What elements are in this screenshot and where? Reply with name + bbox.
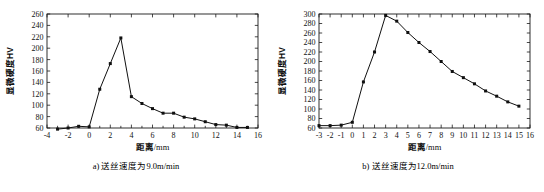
x-tick-label: 12 (212, 131, 220, 140)
y-tick-label: 240 (304, 38, 316, 47)
data-point-marker (362, 80, 365, 83)
data-point-marker (67, 127, 70, 130)
y-tick-label: 220 (32, 33, 44, 42)
x-tick-label: -3 (316, 131, 323, 140)
data-point-marker (162, 112, 165, 115)
chart-b-svg: 6080100120140160180200220240260280300-3-… (272, 0, 544, 160)
chart-b-caption: b) 送丝速度为12.0m/min (272, 160, 544, 173)
data-point-marker (473, 82, 476, 85)
data-point-marker (417, 41, 420, 44)
x-tick-label: 12 (482, 131, 490, 140)
y-tick-label: 180 (32, 56, 44, 65)
chart-panel-a: 6080100120140160180200220240260-4-202468… (0, 0, 272, 192)
x-tick-label: -2 (65, 131, 72, 140)
plot-frame (319, 14, 530, 128)
data-point-marker (484, 89, 487, 92)
data-point-marker (225, 124, 228, 127)
x-tick-label: 8 (172, 131, 176, 140)
y-tick-label: 240 (32, 21, 44, 30)
y-tick-label: 140 (304, 86, 316, 95)
x-tick-label: 15 (515, 131, 523, 140)
y-tick-label: 180 (304, 67, 316, 76)
y-tick-label: 120 (32, 90, 44, 99)
data-point-marker (384, 14, 387, 17)
x-tick-label: 16 (526, 131, 534, 140)
x-tick-label: -4 (44, 131, 51, 140)
chart-a-caption: a) 送丝速度为9.0m/min (0, 160, 272, 173)
data-point-marker (151, 107, 154, 110)
plot-frame (47, 14, 258, 128)
data-point-marker (246, 126, 249, 129)
data-point-marker (429, 50, 432, 53)
x-tick-label: 5 (406, 131, 410, 140)
x-tick-label: 0 (87, 131, 91, 140)
y-tick-label: 200 (304, 57, 316, 66)
data-point-marker (172, 112, 175, 115)
data-point-marker (495, 95, 498, 98)
x-tick-label: 7 (428, 131, 432, 140)
x-tick-label: 9 (450, 131, 454, 140)
x-tick-label: 4 (129, 131, 133, 140)
y-axis-title: 显微硬度HV (277, 47, 287, 95)
x-tick-label: 0 (350, 131, 354, 140)
y-tick-label: 60 (308, 124, 316, 133)
x-tick-label: 8 (439, 131, 443, 140)
y-tick-label: 80 (308, 114, 316, 123)
data-point-marker (88, 125, 91, 128)
y-tick-label: 260 (32, 10, 44, 19)
x-tick-label: 3 (384, 131, 388, 140)
data-point-marker (451, 70, 454, 73)
series-line (319, 15, 519, 125)
data-point-marker (130, 95, 133, 98)
data-point-marker (351, 121, 354, 124)
y-tick-label: 80 (36, 113, 44, 122)
y-tick-label: 140 (32, 78, 44, 87)
y-tick-label: 120 (304, 95, 316, 104)
data-point-marker (109, 62, 112, 65)
x-tick-label: 1 (361, 131, 365, 140)
x-axis-title: 距离/mm (136, 142, 170, 152)
x-tick-label: 10 (191, 131, 199, 140)
y-axis-title: 显微硬度HV (5, 47, 15, 95)
y-tick-label: 280 (304, 19, 316, 28)
x-tick-label: 2 (373, 131, 377, 140)
chart-a: 6080100120140160180200220240260-4-202468… (0, 0, 272, 160)
x-tick-label: 6 (417, 131, 421, 140)
data-point-marker (183, 116, 186, 119)
data-point-marker (406, 31, 409, 34)
x-tick-label: 16 (254, 131, 262, 140)
y-tick-label: 200 (32, 44, 44, 53)
y-tick-label: 60 (36, 124, 44, 133)
data-point-marker (329, 124, 332, 127)
data-point-marker (204, 120, 207, 123)
x-tick-label: 6 (151, 131, 155, 140)
x-tick-label: 4 (395, 131, 399, 140)
x-tick-label: 14 (504, 131, 512, 140)
data-point-marker (214, 123, 217, 126)
x-tick-label: 11 (471, 131, 479, 140)
data-point-marker (373, 51, 376, 54)
data-point-marker (56, 128, 59, 131)
data-point-marker (395, 20, 398, 23)
x-tick-label: 14 (233, 131, 241, 140)
x-axis-title: 距离/mm (408, 142, 442, 152)
x-tick-label: -2 (327, 131, 334, 140)
data-point-marker (318, 124, 321, 127)
data-point-marker (340, 124, 343, 127)
y-tick-label: 160 (32, 67, 44, 76)
x-tick-label: 13 (493, 131, 501, 140)
x-tick-label: 2 (108, 131, 112, 140)
data-point-marker (140, 102, 143, 105)
y-tick-label: 100 (304, 105, 316, 114)
y-tick-label: 300 (304, 10, 316, 19)
data-point-marker (235, 126, 238, 129)
data-point-marker (440, 60, 443, 63)
chart-a-svg: 6080100120140160180200220240260-4-202468… (0, 0, 272, 160)
data-point-marker (119, 36, 122, 39)
y-tick-label: 220 (304, 48, 316, 57)
chart-panel-b: 6080100120140160180200220240260280300-3-… (272, 0, 544, 192)
chart-b: 6080100120140160180200220240260280300-3-… (272, 0, 544, 160)
y-tick-label: 100 (32, 101, 44, 110)
x-tick-label: -1 (338, 131, 345, 140)
data-point-marker (462, 76, 465, 79)
